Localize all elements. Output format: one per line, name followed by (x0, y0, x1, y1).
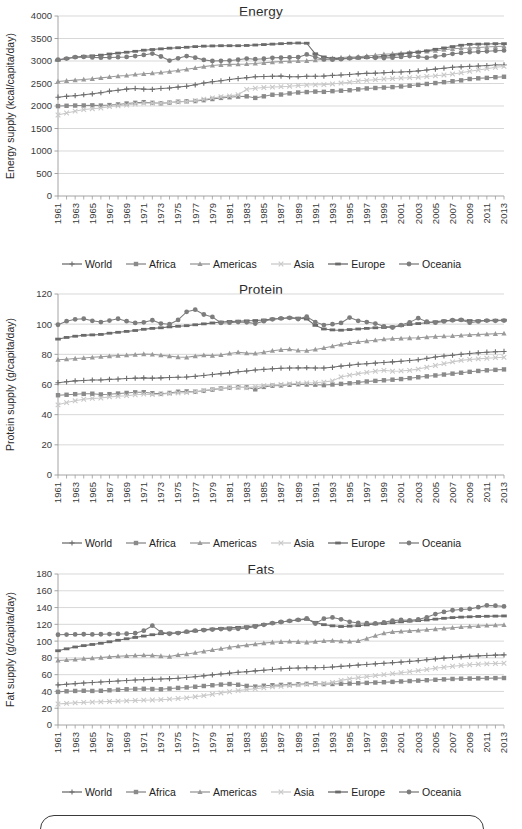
chart-canvas-energy: 0500100015002000250030003500400019611963… (0, 0, 522, 252)
legend-item-asia[interactable]: Asia (270, 537, 314, 549)
legend-marker-dash-icon (327, 787, 349, 797)
svg-text:1975: 1975 (172, 203, 183, 224)
legend-marker-circle-icon (398, 538, 420, 548)
plot-svg-fats: 0204060801001201401601801961196319651967… (0, 558, 522, 783)
legend-label: Europe (351, 258, 385, 270)
svg-text:2011: 2011 (481, 482, 492, 502)
legend-label: Asia (294, 537, 314, 549)
plot-svg-energy: 0500100015002000250030003500400019611963… (0, 0, 522, 252)
legend-item-oceania[interactable]: Oceania (398, 537, 461, 549)
svg-text:Energy supply (kcal/capita/day: Energy supply (kcal/capita/day) (4, 33, 16, 179)
svg-text:1969: 1969 (121, 482, 132, 503)
svg-text:1991: 1991 (310, 732, 321, 753)
svg-text:1987: 1987 (275, 732, 286, 753)
svg-text:1971: 1971 (138, 203, 149, 224)
svg-text:0: 0 (47, 469, 52, 480)
legend-energy: WorldAfricaAmericasAsiaEuropeOceania (0, 258, 522, 270)
legend-marker-dash-icon (327, 259, 349, 269)
svg-text:20: 20 (41, 439, 52, 450)
svg-text:1975: 1975 (172, 732, 183, 753)
svg-text:500: 500 (36, 168, 52, 179)
legend-item-africa[interactable]: Africa (125, 786, 176, 798)
legend-marker-circle-icon (398, 259, 420, 269)
legend-item-africa[interactable]: Africa (125, 258, 176, 270)
svg-text:1963: 1963 (70, 203, 81, 224)
svg-text:1981: 1981 (224, 203, 235, 224)
legend-item-oceania[interactable]: Oceania (398, 786, 461, 798)
legend-item-africa[interactable]: Africa (125, 537, 176, 549)
svg-text:2013: 2013 (498, 482, 509, 503)
svg-text:1989: 1989 (293, 203, 304, 224)
svg-text:2000: 2000 (31, 100, 52, 111)
svg-text:4000: 4000 (31, 10, 52, 21)
legend-label: Oceania (422, 786, 461, 798)
legend-marker-plus-icon (61, 787, 83, 797)
svg-text:1999: 1999 (378, 482, 389, 503)
svg-text:1963: 1963 (70, 482, 81, 503)
svg-text:2003: 2003 (413, 203, 424, 224)
svg-text:2005: 2005 (430, 482, 441, 503)
svg-text:1995: 1995 (344, 732, 355, 753)
legend-item-americas[interactable]: Americas (189, 786, 257, 798)
chart-canvas-fats: 0204060801001201401601801961196319651967… (0, 558, 522, 783)
svg-text:1973: 1973 (155, 482, 166, 503)
legend-label: Africa (149, 258, 176, 270)
svg-text:1995: 1995 (344, 482, 355, 503)
svg-text:1997: 1997 (361, 732, 372, 753)
legend-marker-triangle-icon (189, 259, 211, 269)
svg-text:1961: 1961 (52, 482, 63, 503)
svg-text:Protein supply (g/capita/day): Protein supply (g/capita/day) (4, 318, 16, 451)
svg-text:40: 40 (41, 686, 52, 697)
svg-text:2013: 2013 (498, 203, 509, 224)
legend-label: Africa (149, 786, 176, 798)
legend-marker-circle-icon (398, 787, 420, 797)
svg-text:1967: 1967 (104, 482, 115, 503)
legend-item-americas[interactable]: Americas (189, 537, 257, 549)
svg-text:2007: 2007 (447, 482, 458, 503)
svg-text:1997: 1997 (361, 482, 372, 503)
svg-text:100: 100 (36, 319, 52, 330)
svg-text:1975: 1975 (172, 482, 183, 503)
legend-label: Europe (351, 786, 385, 798)
legend-item-asia[interactable]: Asia (270, 258, 314, 270)
svg-text:2500: 2500 (31, 78, 52, 89)
svg-text:2007: 2007 (447, 732, 458, 753)
svg-text:1999: 1999 (378, 732, 389, 753)
svg-text:1991: 1991 (310, 482, 321, 503)
legend-item-americas[interactable]: Americas (189, 258, 257, 270)
svg-text:1981: 1981 (224, 732, 235, 753)
legend-marker-x-icon (270, 259, 292, 269)
svg-text:2007: 2007 (447, 203, 458, 224)
legend-label: World (85, 258, 112, 270)
svg-text:140: 140 (36, 602, 52, 613)
legend-item-world[interactable]: World (61, 786, 112, 798)
svg-text:120: 120 (36, 619, 52, 630)
figure-page: Energy 050010001500200025003000350040001… (0, 0, 522, 829)
legend-item-oceania[interactable]: Oceania (398, 258, 461, 270)
legend-item-europe[interactable]: Europe (327, 258, 385, 270)
legend-item-asia[interactable]: Asia (270, 786, 314, 798)
svg-text:2009: 2009 (464, 482, 475, 503)
legend-item-europe[interactable]: Europe (327, 537, 385, 549)
svg-text:20: 20 (41, 703, 52, 714)
svg-text:1981: 1981 (224, 482, 235, 503)
svg-text:2001: 2001 (395, 482, 406, 503)
legend-label: Asia (294, 786, 314, 798)
svg-text:2003: 2003 (413, 482, 424, 503)
svg-text:1993: 1993 (327, 482, 338, 503)
legend-marker-x-icon (270, 538, 292, 548)
legend-item-world[interactable]: World (61, 258, 112, 270)
svg-text:1973: 1973 (155, 203, 166, 224)
legend-marker-plus-icon (61, 538, 83, 548)
svg-text:0: 0 (47, 190, 52, 201)
svg-text:3000: 3000 (31, 55, 52, 66)
legend-item-world[interactable]: World (61, 537, 112, 549)
svg-text:1995: 1995 (344, 203, 355, 224)
plot-svg-protein: 0204060801001201961196319651967196919711… (0, 278, 522, 533)
svg-text:80: 80 (41, 652, 52, 663)
svg-text:1977: 1977 (190, 732, 201, 753)
legend-marker-x-icon (270, 787, 292, 797)
legend-item-europe[interactable]: Europe (327, 786, 385, 798)
chart-protein: Protein 02040608010012019611963196519671… (0, 278, 522, 558)
svg-text:120: 120 (36, 288, 52, 299)
